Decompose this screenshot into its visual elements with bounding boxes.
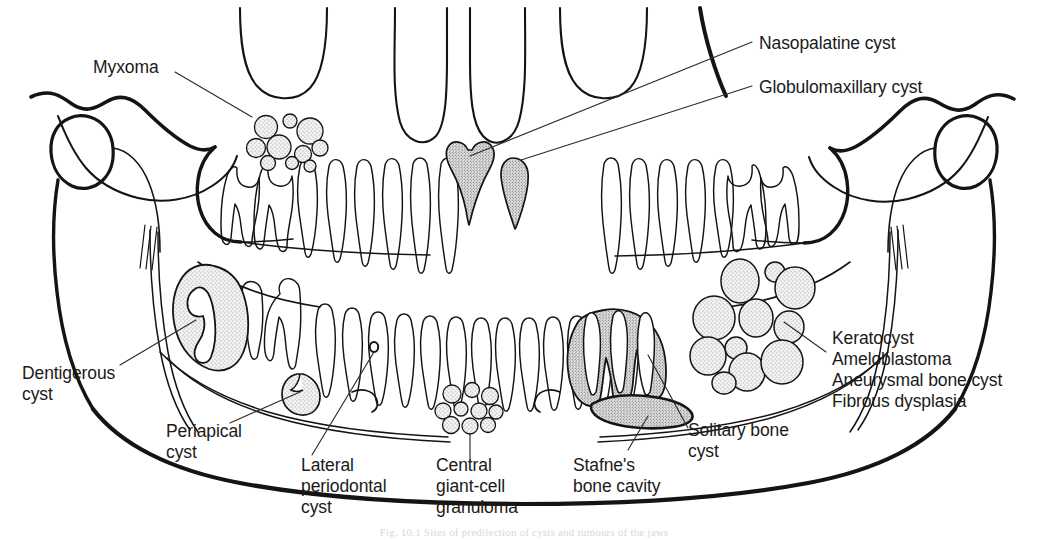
- lesion-keratocyst-group: [690, 259, 815, 394]
- lesion-stafnes-bone-cavity: [591, 395, 693, 428]
- lesion-myxoma: [247, 114, 329, 172]
- label-nasopalatine-cyst: Nasopalatine cyst: [759, 33, 895, 54]
- lesion-nasopalatine-cyst: [446, 142, 494, 225]
- label-periapical-cyst: Periapical cyst: [166, 421, 242, 463]
- label-keratocyst-group: Keratocyst Ameloblastoma Aneurysmal bone…: [832, 328, 1002, 412]
- lesion-dentigerous-cyst: [173, 265, 248, 371]
- label-dentigerous-cyst: Dentigerous cyst: [22, 363, 115, 405]
- label-central-giant-cell-granuloma: Central giant-cell granuloma: [436, 455, 518, 518]
- label-globulomaxillary-cyst: Globulomaxillary cyst: [759, 77, 922, 98]
- figure-caption: Fig. 10.1 Sites of predilection of cysts…: [0, 526, 1048, 540]
- leader-myxoma: [175, 72, 252, 117]
- figure-container: Myxoma Nasopalatine cyst Globulomaxillar…: [0, 0, 1048, 540]
- lesion-central-giant-cell-granuloma: [435, 383, 503, 435]
- lesion-periapical-cyst: [282, 374, 320, 415]
- label-myxoma: Myxoma: [93, 57, 159, 78]
- label-lateral-periodontal-cyst: Lateral periodontal cyst: [301, 455, 387, 518]
- label-stafnes-bone-cavity: Stafne's bone cavity: [573, 455, 660, 497]
- mental-foramen: [370, 342, 378, 352]
- leader-lateral-periodontal: [312, 352, 374, 455]
- leader-globulomaxillary: [521, 86, 752, 160]
- lesion-solitary-bone-cyst: [567, 309, 666, 406]
- lesion-globulomaxillary-cyst: [501, 158, 528, 229]
- label-solitary-bone-cyst: Solitary bone cyst: [688, 420, 789, 462]
